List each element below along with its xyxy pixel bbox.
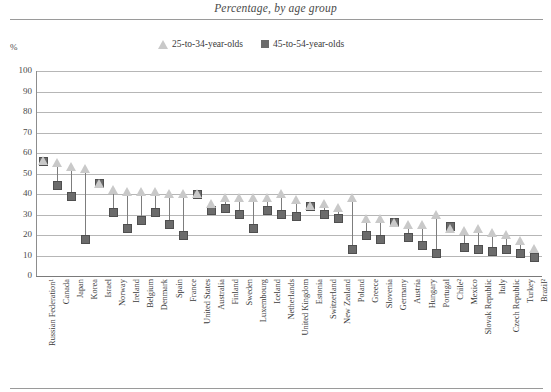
chart-page: Percentage, by age group % 25-to-34-year… <box>0 0 551 392</box>
legend-item: 45-to-54-year-olds <box>261 39 344 49</box>
y-axis-tick-label: 80 <box>8 107 32 116</box>
data-point-group <box>220 71 231 276</box>
x-axis-category-label: Japan <box>75 279 86 387</box>
square-icon <box>109 208 118 217</box>
data-point-group <box>445 71 456 276</box>
x-axis-category-label: Brazil² <box>539 279 550 387</box>
triangle-icon <box>158 40 168 49</box>
square-icon <box>292 212 301 221</box>
triangle-icon <box>206 199 216 208</box>
x-axis-category-labels: Russian Federation¹CanadaJapanKoreaIsrae… <box>36 279 542 387</box>
x-axis-category-label: Israel <box>103 279 114 387</box>
data-point-group <box>164 71 175 276</box>
data-point-group <box>276 71 287 276</box>
triangle-icon <box>248 193 258 202</box>
data-point-group <box>108 71 119 276</box>
square-icon <box>488 247 497 256</box>
square-icon <box>404 233 413 242</box>
connector-line <box>436 215 437 254</box>
data-point-group <box>515 71 526 276</box>
x-axis-category-label: Greece <box>370 279 381 387</box>
data-point-group <box>473 71 484 276</box>
connector-line <box>127 192 128 229</box>
x-axis-category-label: Chile² <box>455 279 466 387</box>
data-point-group <box>80 71 91 276</box>
x-axis-category-label: United Kingdom <box>300 279 311 387</box>
triangle-icon <box>164 189 174 198</box>
triangle-icon <box>473 224 483 233</box>
square-icon <box>334 214 343 223</box>
data-point-group <box>459 71 470 276</box>
square-icon <box>81 235 90 244</box>
square-icon <box>460 243 469 252</box>
square-icon <box>137 216 146 225</box>
data-point-group <box>417 71 428 276</box>
square-icon <box>348 245 357 254</box>
x-axis-category-label: Slovenia <box>384 279 395 387</box>
triangle-icon <box>515 236 525 245</box>
legend-item: 25-to-34-year-olds <box>158 39 243 49</box>
x-axis-category-label: Portugal <box>441 279 452 387</box>
square-icon <box>530 253 539 262</box>
triangle-icon <box>66 162 76 171</box>
triangle-icon <box>347 193 357 202</box>
data-point-group <box>150 71 161 276</box>
square-icon <box>362 231 371 240</box>
y-axis-tick-label: 40 <box>8 189 32 198</box>
page-title: Percentage, by age group <box>0 2 551 14</box>
plot-area <box>36 71 542 276</box>
x-axis-category-label: Iceland <box>272 279 283 387</box>
data-point-group <box>234 71 245 276</box>
data-point-group <box>291 71 302 276</box>
data-point-group <box>206 71 217 276</box>
x-axis-category-label: Estonia <box>314 279 325 387</box>
y-axis-tick-label: 70 <box>8 128 32 137</box>
x-axis-category-label: France <box>188 279 199 387</box>
x-axis-category-label: Ireland <box>131 279 142 387</box>
data-point-group <box>94 71 105 276</box>
x-axis-category-label: United States <box>202 279 213 387</box>
y-axis-tick-labels: 1009080706050403020100 <box>4 71 32 276</box>
triangle-icon <box>487 228 497 237</box>
square-icon <box>179 231 188 240</box>
x-axis-category-label: Netherlands <box>286 279 297 387</box>
x-axis-category-label: Spain <box>174 279 185 387</box>
data-point-group <box>122 71 133 276</box>
triangle-icon <box>361 214 371 223</box>
triangle-icon <box>108 185 118 194</box>
square-icon <box>261 40 269 48</box>
data-point-group <box>178 71 189 276</box>
data-point-group <box>262 71 273 276</box>
y-axis-tick-label: 30 <box>8 210 32 219</box>
square-icon <box>320 210 329 219</box>
triangle-icon <box>417 220 427 229</box>
x-axis-category-label: Slovak Republic <box>483 279 494 387</box>
data-point-group <box>403 71 414 276</box>
square-icon <box>432 249 441 258</box>
data-point-group <box>66 71 77 276</box>
triangle-icon <box>276 189 286 198</box>
y-axis-tick-label: 20 <box>8 230 32 239</box>
triangle-icon <box>305 201 315 210</box>
y-axis-tick-label: 10 <box>8 251 32 260</box>
x-axis-category-label: Poland <box>356 279 367 387</box>
x-axis-category-label: Korea <box>89 279 100 387</box>
triangle-icon <box>52 158 62 167</box>
data-point-group <box>361 71 372 276</box>
x-axis-category-label: Switzerland <box>328 279 339 387</box>
square-icon <box>67 192 76 201</box>
triangle-icon <box>333 203 343 212</box>
data-point-group <box>389 71 400 276</box>
x-axis-category-label: Turkey <box>525 279 536 387</box>
legend-item-label: 45-to-54-year-olds <box>273 39 344 49</box>
x-axis-category-label: Mexico <box>469 279 480 387</box>
data-point-group <box>319 71 330 276</box>
square-icon <box>502 245 511 254</box>
data-point-group <box>431 71 442 276</box>
y-axis-unit-label: % <box>10 42 18 52</box>
connector-line <box>85 169 86 239</box>
triangle-icon <box>94 179 104 188</box>
data-point-group <box>529 71 540 276</box>
triangle-icon <box>178 189 188 198</box>
x-axis-category-label: Czech Republic <box>511 279 522 387</box>
